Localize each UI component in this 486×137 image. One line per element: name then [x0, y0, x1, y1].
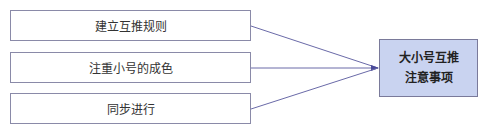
input-label-1: 建立互推规则: [95, 17, 167, 34]
input-box-2: 注重小号的成色: [10, 52, 251, 83]
input-box-1: 建立互推规则: [10, 10, 251, 41]
connector-3: [251, 68, 378, 109]
connector-1: [251, 26, 378, 68]
input-label-3: 同步进行: [107, 100, 155, 117]
target-line-1: 大小号互推: [399, 48, 459, 68]
target-line-2: 注意事项: [405, 68, 453, 88]
input-label-2: 注重小号的成色: [89, 59, 173, 76]
input-box-3: 同步进行: [10, 93, 251, 124]
target-box: 大小号互推 注意事项: [379, 39, 478, 97]
